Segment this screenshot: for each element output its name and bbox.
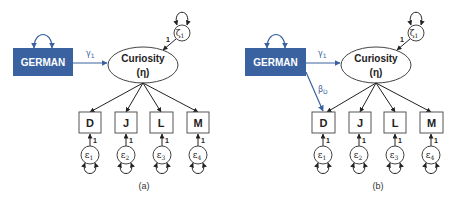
- gamma-label: γ1: [318, 49, 327, 59]
- indicator-d: D 1 ε1: [312, 112, 335, 174]
- exogenous-german-node: GERMAN: [245, 35, 306, 77]
- variance-loop-icon: [120, 163, 132, 174]
- svg-text:1: 1: [129, 137, 133, 144]
- disturbance-loading: 1: [400, 36, 404, 43]
- svg-text:1: 1: [398, 137, 402, 144]
- beta-label: βD: [318, 85, 328, 95]
- factor-loadings: [327, 83, 431, 112]
- variance-loop-icon: [317, 163, 329, 174]
- variance-loop-icon: [410, 12, 422, 25]
- indicator-j: J 1 ε2: [115, 112, 137, 174]
- gamma-label: γ1: [86, 49, 95, 59]
- indicator-l: L 1 ε3: [150, 112, 173, 174]
- exogenous-german-node: GERMAN: [13, 35, 73, 77]
- svg-text:1: 1: [434, 137, 438, 144]
- disturbance-loading: 1: [166, 36, 170, 43]
- indicator-m: M 1 ε4: [420, 112, 443, 174]
- variance-loop-icon: [156, 163, 168, 174]
- factor-loadings: [90, 83, 198, 112]
- variance-loop-icon: [389, 163, 401, 174]
- sem-diagram: GERMAN γ1 Curiosity (η) ζ1 1: [0, 0, 457, 213]
- disturbance-zeta-node: ζ1 1: [397, 12, 424, 50]
- indicator-l: L 1 ε3: [384, 112, 406, 174]
- svg-text:D: D: [320, 117, 328, 129]
- svg-text:M: M: [193, 117, 202, 129]
- variance-loop-icon: [84, 163, 96, 174]
- variance-loop-icon: [425, 163, 437, 174]
- indicator-m: M 1 ε4: [187, 112, 209, 174]
- svg-text:L: L: [392, 117, 399, 129]
- svg-text:M: M: [427, 117, 436, 129]
- latent-symbol: (η): [137, 67, 150, 78]
- variance-loop-icon: [34, 35, 52, 49]
- variance-loop-icon: [353, 163, 365, 174]
- panel-caption: (b): [373, 181, 384, 191]
- svg-text:J: J: [357, 117, 363, 129]
- indicator-d: D 1 ε1: [79, 112, 101, 174]
- disturbance-zeta-node: ζ1 1: [163, 12, 190, 50]
- panel-caption: (a): [139, 181, 150, 191]
- variance-loop-icon: [267, 35, 285, 49]
- latent-curiosity-node: Curiosity (η): [108, 47, 178, 83]
- svg-text:1: 1: [165, 137, 169, 144]
- svg-text:D: D: [86, 117, 94, 129]
- latent-label: Curiosity: [121, 53, 165, 64]
- exogenous-label: GERMAN: [253, 57, 297, 68]
- indicator-j: J 1 ε2: [349, 112, 371, 174]
- latent-curiosity-node: Curiosity (η): [341, 47, 411, 83]
- panel-a: GERMAN γ1 Curiosity (η) ζ1 1: [13, 12, 209, 191]
- svg-text:1: 1: [93, 137, 97, 144]
- svg-text:1: 1: [201, 137, 205, 144]
- svg-text:1: 1: [362, 137, 366, 144]
- svg-text:L: L: [158, 117, 165, 129]
- svg-text:J: J: [123, 117, 129, 129]
- exogenous-label: GERMAN: [21, 57, 65, 68]
- latent-symbol: (η): [370, 67, 383, 78]
- panel-b: GERMAN γ1 βD Curiosity (η) ζ1 1 D: [245, 12, 443, 191]
- variance-loop-icon: [192, 163, 204, 174]
- svg-text:1: 1: [326, 137, 330, 144]
- latent-label: Curiosity: [354, 53, 398, 64]
- variance-loop-icon: [176, 12, 188, 25]
